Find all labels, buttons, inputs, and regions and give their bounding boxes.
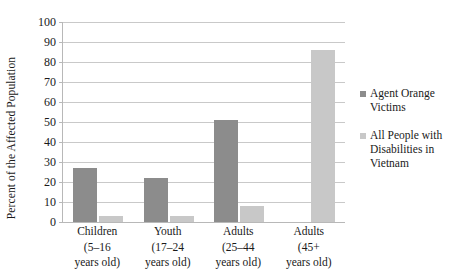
x-axis-category-label: Children(5–16years old) <box>62 224 133 271</box>
y-axis-tick-label: 30 <box>44 155 56 170</box>
x-axis-label-line: Children <box>62 224 133 240</box>
x-axis-category-label: Youth(17–24years old) <box>133 224 204 271</box>
y-axis-tick-label: 100 <box>38 15 56 30</box>
bar-group <box>275 22 346 222</box>
legend-item[interactable]: All People withDisabilities inVietnam <box>360 128 460 170</box>
x-axis-label-line: (17–24 <box>133 240 204 256</box>
x-axis-label-line: (25–44 <box>203 240 274 256</box>
x-axis-label-line: years old) <box>62 255 133 271</box>
x-axis-label-line: years old) <box>203 255 274 271</box>
chart-legend: Agent OrangeVictimsAll People withDisabi… <box>360 86 460 184</box>
y-axis-tick-label: 40 <box>44 135 56 150</box>
legend-label-line: Disabilities in <box>370 142 442 156</box>
bar[interactable] <box>144 178 168 222</box>
legend-label: Agent OrangeVictims <box>370 86 435 114</box>
x-axis-label-line: Adults <box>274 224 345 240</box>
y-axis-tick-label: 0 <box>50 215 56 230</box>
x-axis-category-labels: Children(5–16years old)Youth(17–24years … <box>62 224 344 271</box>
legend-label-line: Victims <box>370 100 435 114</box>
bar[interactable] <box>170 216 194 222</box>
x-axis-label-line: Adults <box>203 224 274 240</box>
plot-wrapper: 1009080706050403020100 Children(5–16year… <box>26 10 354 276</box>
x-axis-category-label: Adults(25–44years old) <box>203 224 274 271</box>
legend-item[interactable]: Agent OrangeVictims <box>360 86 460 114</box>
bar-group <box>134 22 205 222</box>
y-axis-tick-label: 60 <box>44 95 56 110</box>
bars-layer <box>63 22 345 222</box>
plot-area <box>62 22 345 223</box>
y-axis-tickmark <box>59 222 63 223</box>
bar[interactable] <box>311 50 335 222</box>
bar[interactable] <box>240 206 264 222</box>
x-axis-label-line: years old) <box>274 255 345 271</box>
y-axis-tick-label: 50 <box>44 115 56 130</box>
x-axis-label-line: Youth <box>133 224 204 240</box>
bar[interactable] <box>73 168 97 222</box>
legend-swatch-icon <box>360 133 366 139</box>
legend-label-line: Vietnam <box>370 156 442 170</box>
bar-group <box>204 22 275 222</box>
y-axis-tick-label: 20 <box>44 175 56 190</box>
y-axis-tick-label: 10 <box>44 195 56 210</box>
y-axis-tick-labels: 1009080706050403020100 <box>26 22 56 222</box>
legend-label: All People withDisabilities inVietnam <box>370 128 442 170</box>
bar-group <box>63 22 134 222</box>
y-axis-tick-label: 70 <box>44 75 56 90</box>
legend-label-line: All People with <box>370 128 442 142</box>
legend-label-line: Agent Orange <box>370 86 435 100</box>
y-axis-title: Percent of the Affected Population <box>0 0 22 276</box>
x-axis-label-line: (5–16 <box>62 240 133 256</box>
y-axis-tick-label: 80 <box>44 55 56 70</box>
bar[interactable] <box>214 120 238 222</box>
y-axis-tick-label: 90 <box>44 35 56 50</box>
x-axis-label-line: years old) <box>133 255 204 271</box>
legend-swatch-icon <box>360 91 366 97</box>
bar[interactable] <box>99 216 123 222</box>
x-axis-label-line: (45+ <box>274 240 345 256</box>
x-axis-category-label: Adults(45+years old) <box>274 224 345 271</box>
bar-chart: Percent of the Affected Population 10090… <box>0 0 460 276</box>
